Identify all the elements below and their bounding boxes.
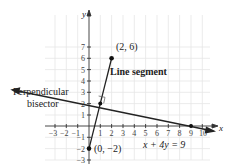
coordinate-plane: y x −3 −2 −1 1 2 3 4 5 6 7 8 9 10 7 6 5 … xyxy=(0,0,234,167)
svg-text:7: 7 xyxy=(166,129,170,138)
svg-text:−1: −1 xyxy=(76,133,85,142)
x-axis-label: x xyxy=(218,123,223,133)
svg-text:3: 3 xyxy=(81,88,85,97)
bisector-label-line1: Perpendicular xyxy=(13,86,69,97)
point-9-0 xyxy=(189,124,193,128)
svg-text:6: 6 xyxy=(81,54,85,63)
point-2-6 xyxy=(109,56,114,61)
svg-text:4: 4 xyxy=(81,77,85,86)
svg-text:1: 1 xyxy=(81,111,85,120)
svg-text:6: 6 xyxy=(155,129,159,138)
bisector-label-line2: bisector xyxy=(27,98,59,109)
svg-text:8: 8 xyxy=(178,129,182,138)
svg-text:−2: −2 xyxy=(60,129,69,138)
svg-text:2: 2 xyxy=(110,129,114,138)
point-label-0-neg2: (0, −2) xyxy=(94,143,121,155)
y-axis-arrow-icon xyxy=(87,10,91,16)
svg-text:−3: −3 xyxy=(49,129,58,138)
svg-text:1: 1 xyxy=(98,129,102,138)
midpoint-1-2 xyxy=(98,102,102,106)
svg-text:5: 5 xyxy=(81,66,85,75)
y-axis-label: y xyxy=(81,9,86,19)
svg-text:−2: −2 xyxy=(76,145,85,154)
svg-text:7: 7 xyxy=(81,43,85,52)
line-segment-label: Line segment xyxy=(110,66,168,77)
equation-label: x + 4y = 9 xyxy=(142,139,185,150)
svg-text:3: 3 xyxy=(121,129,125,138)
axes xyxy=(45,10,218,164)
svg-text:9: 9 xyxy=(189,129,193,138)
point-label-2-6: (2, 6) xyxy=(116,41,138,53)
x-tick-labels: −3 −2 −1 1 2 3 4 5 6 7 8 9 10 xyxy=(49,129,207,138)
svg-text:5: 5 xyxy=(144,129,148,138)
svg-text:4: 4 xyxy=(132,129,136,138)
x-axis-arrow-icon xyxy=(212,124,218,128)
point-0-neg2 xyxy=(87,146,92,151)
svg-text:−3: −3 xyxy=(76,156,85,165)
